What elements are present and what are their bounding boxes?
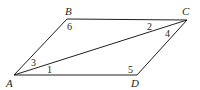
angle-label-1: 1 bbox=[47, 64, 52, 75]
angle-label-4: 4 bbox=[165, 28, 170, 39]
edges bbox=[14, 19, 187, 75]
vertex-label-d: D bbox=[130, 77, 139, 89]
angle-label-6: 6 bbox=[67, 21, 72, 32]
edge-bc bbox=[67, 19, 187, 20]
parallelogram-diagram: A B C D 1 2 3 4 5 6 bbox=[0, 0, 200, 90]
angle-label-3: 3 bbox=[31, 57, 36, 68]
vertex-label-a: A bbox=[5, 77, 13, 89]
angle-label-5: 5 bbox=[128, 64, 133, 75]
vertex-label-b: B bbox=[65, 5, 72, 17]
angle-label-2: 2 bbox=[147, 21, 152, 32]
vertex-label-c: C bbox=[182, 5, 190, 17]
